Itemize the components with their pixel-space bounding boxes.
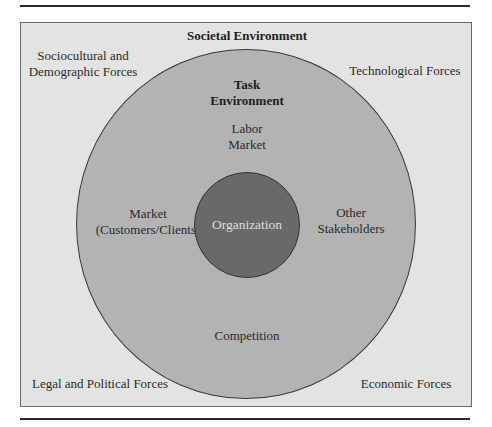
market-line-2: (Customers/Clients) <box>96 222 201 238</box>
sociocultural-line-2: Demographic Forces <box>29 64 138 80</box>
technological-forces-text: Technological Forces <box>349 63 460 79</box>
competition-label: Competition <box>215 328 280 344</box>
other-stakeholders-label: Other Stakeholders <box>317 205 384 236</box>
task-environment-title: Task Environment <box>210 77 283 108</box>
legal-political-forces-text: Legal and Political Forces <box>32 376 168 392</box>
other-stakeholders-line-2: Stakeholders <box>317 221 384 237</box>
top-rule <box>20 5 470 7</box>
societal-environment-title-text: Societal Environment <box>187 28 307 44</box>
economic-forces-text: Economic Forces <box>361 376 452 392</box>
task-environment-title-line-2: Environment <box>210 93 283 109</box>
market-line-1: Market <box>96 206 201 222</box>
other-stakeholders-line-1: Other <box>317 205 384 221</box>
sociocultural-demographic-forces-label: Sociocultural and Demographic Forces <box>29 48 138 79</box>
task-environment-title-line-1: Task <box>210 77 283 93</box>
economic-forces-label: Economic Forces <box>361 376 452 392</box>
labor-market-label: Labor Market <box>228 121 266 152</box>
legal-political-forces-label: Legal and Political Forces <box>32 376 168 392</box>
organization-label: Organization <box>212 217 282 233</box>
societal-environment-title: Societal Environment <box>187 28 307 44</box>
competition-text: Competition <box>215 328 280 344</box>
sociocultural-line-1: Sociocultural and <box>29 48 138 64</box>
technological-forces-label: Technological Forces <box>349 63 460 79</box>
labor-market-line-1: Labor <box>228 121 266 137</box>
labor-market-line-2: Market <box>228 137 266 153</box>
market-customers-label: Market (Customers/Clients) <box>96 206 201 237</box>
bottom-rule <box>20 418 470 420</box>
organization-text: Organization <box>212 217 282 233</box>
